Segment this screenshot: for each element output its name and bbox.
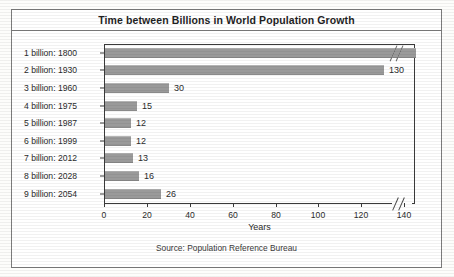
bar-row: 7 billion: 201213 [0,150,454,168]
bar [105,189,161,199]
x-axis-tick [147,203,148,207]
category-label: 9 billion: 2054 [24,189,100,199]
category-label: 3 billion: 1960 [24,83,100,93]
bar-row: 4 billion: 197515 [0,97,454,115]
category-label: 6 billion: 1999 [24,136,100,146]
x-axis-break-icon [392,197,412,210]
category-label: 4 billion: 1975 [24,101,100,111]
bar-row: 6 billion: 199912 [0,132,454,150]
category-label: 2 billion: 1930 [24,65,100,75]
x-axis-ticks: 020406080100120140 [0,203,454,204]
bar [105,83,169,93]
bar [105,65,384,75]
x-axis-tick [276,203,277,207]
bar-value-label: 12 [136,136,146,146]
y-axis-tick [100,105,104,106]
bar [105,118,131,128]
x-axis-tick-label: 80 [271,210,281,220]
x-axis-tick [233,203,234,207]
bar-value-label: 26 [166,189,176,199]
y-axis-tick [100,175,104,176]
bar [105,48,416,58]
page-title: Time between Billions in World Populatio… [98,14,354,26]
category-label: 7 billion: 2012 [24,153,100,163]
y-axis-tick [100,158,104,159]
x-axis-tick-label: 100 [311,210,325,220]
x-axis-tick [190,203,191,207]
bar-rows: 1 billion: 18002 billion: 19301303 billi… [0,44,454,203]
x-axis-tick-label: 0 [102,210,107,220]
x-axis-tick [404,203,405,207]
y-axis-tick [100,193,104,194]
x-axis-tick-label: 40 [185,210,195,220]
bar [105,136,131,146]
bar-row: 3 billion: 196030 [0,79,454,97]
category-label: 8 billion: 2028 [24,171,100,181]
x-axis-tick-label: 20 [142,210,152,220]
y-axis-tick [100,140,104,141]
x-axis-tick [104,203,105,207]
bar-value-label: 16 [144,171,154,181]
x-axis-tick-label: 140 [397,210,411,220]
x-axis-tick-label: 120 [354,210,368,220]
bar-row: 5 billion: 198712 [0,114,454,132]
bar-value-label: 12 [136,118,146,128]
bar-value-label: 130 [389,65,404,75]
category-label: 5 billion: 1987 [24,118,100,128]
y-axis-tick [100,70,104,71]
x-axis-tick-label: 60 [228,210,238,220]
source-note: Source: Population Reference Bureau [11,243,442,253]
x-axis-tick [318,203,319,207]
bar-row: 9 billion: 205426 [0,185,454,203]
category-label: 1 billion: 1800 [24,48,100,58]
chart-page: Time between Billions in World Populatio… [0,0,454,277]
bar-value-label: 15 [142,101,152,111]
y-axis-tick [100,52,104,53]
bar [105,101,137,111]
bar-value-label: 30 [174,83,184,93]
bar-row: 2 billion: 1930130 [0,62,454,80]
x-axis-label: Years [104,222,415,232]
bar [105,171,139,181]
x-axis-tick [361,203,362,207]
y-axis-tick [100,123,104,124]
bar [105,153,133,163]
bar-row: 8 billion: 202816 [0,167,454,185]
y-axis-tick [100,87,104,88]
bar-value-label: 13 [138,153,148,163]
chart-title-band: Time between Billions in World Populatio… [11,9,442,31]
bar-row: 1 billion: 1800 [0,44,454,62]
